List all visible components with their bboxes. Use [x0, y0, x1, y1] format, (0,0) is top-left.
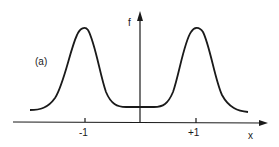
- x-tick-label-plus-1: +1: [188, 128, 199, 138]
- x-tick-label-minus-1: -1: [79, 128, 88, 138]
- x-axis-label: x: [248, 131, 253, 141]
- x-axis: [13, 122, 264, 123]
- y-axis-arrow-icon: [137, 11, 143, 21]
- curve-f: [30, 28, 248, 112]
- y-axis-label: f: [128, 18, 131, 28]
- chart-canvas: [0, 0, 279, 147]
- panel-label: (a): [35, 57, 47, 67]
- x-axis-arrow-icon: [259, 120, 268, 126]
